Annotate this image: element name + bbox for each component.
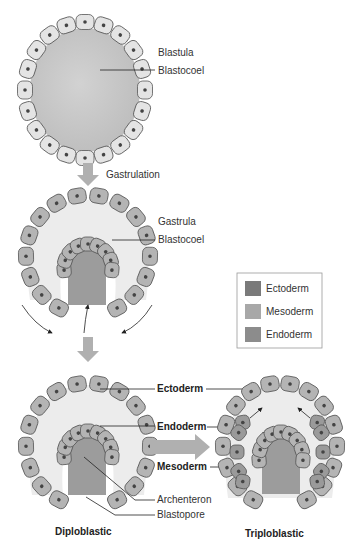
archenteron-label: Archenteron	[157, 494, 211, 505]
cell-nucleus	[83, 20, 87, 24]
legend-swatch-endoderm	[245, 327, 261, 342]
blastopore-label: Blastopore	[157, 509, 205, 520]
embryo-diagram: Blastula Blastocoel Gastrulation Gastrul…	[0, 0, 355, 556]
cell	[89, 375, 109, 393]
cell	[230, 445, 244, 459]
cell	[295, 452, 310, 468]
cell	[309, 473, 325, 489]
cell	[89, 187, 109, 205]
ectoderm-label: Ectoderm	[157, 383, 203, 394]
cell	[235, 473, 251, 489]
cell	[260, 375, 280, 393]
cell-nucleus	[86, 429, 90, 433]
gastrula-title: Gastrula	[158, 216, 196, 227]
mesoderm-label: Mesoderm	[157, 461, 207, 472]
cell	[67, 187, 87, 205]
legend: Ectoderm Mesoderm Endoderm	[237, 273, 322, 348]
invagination-arrow-left	[22, 305, 52, 333]
diploblastic-caption: Diploblastic	[55, 526, 112, 537]
invagination-arrow-center	[84, 305, 88, 333]
legend-label-ectoderm: Ectoderm	[266, 283, 309, 294]
gastrula: Gastrula Blastocoel	[18, 187, 204, 333]
triploblastic-embryo	[215, 375, 344, 511]
diploblastic-embryo	[18, 375, 157, 511]
cell-nucleus	[86, 242, 90, 246]
cell	[316, 445, 330, 459]
cell	[280, 375, 300, 393]
legend-label-endoderm: Endoderm	[266, 329, 312, 340]
gastrulation-label: Gastrulation	[106, 169, 160, 180]
down-arrow-icon	[77, 163, 99, 186]
legend-swatch-mesoderm	[245, 304, 261, 319]
cell	[138, 81, 153, 99]
blastula-title: Blastula	[158, 47, 194, 58]
gastrulation-arrow: Gastrulation	[77, 163, 160, 186]
cell	[104, 262, 119, 278]
legend-label-mesoderm: Mesoderm	[266, 306, 313, 317]
cell	[104, 449, 119, 465]
cell	[18, 247, 33, 265]
cell	[329, 437, 344, 455]
right-arrow-icon	[150, 434, 210, 460]
cell	[18, 437, 33, 455]
cell	[67, 375, 87, 393]
blastula: Blastula Blastocoel	[18, 15, 205, 166]
endoderm-label: Endoderm	[157, 421, 207, 432]
legend-swatch-ectoderm	[245, 281, 261, 296]
cell	[18, 81, 33, 99]
blastocoel-cavity	[30, 28, 140, 152]
gastrula-blastocoel-label: Blastocoel	[158, 234, 204, 245]
cell-nucleus	[321, 450, 325, 454]
down-arrow-icon	[77, 337, 99, 362]
cell	[47, 297, 70, 319]
blastula-blastocoel-label: Blastocoel	[158, 65, 204, 76]
cell-nucleus	[83, 156, 87, 160]
cell	[142, 247, 157, 265]
cell-nucleus	[235, 450, 239, 454]
cell-nucleus	[143, 88, 147, 92]
triploblastic-caption: Triploblastic	[245, 528, 304, 539]
cell	[215, 437, 230, 455]
cell-nucleus	[23, 88, 27, 92]
cell	[76, 15, 94, 30]
cell	[106, 297, 129, 319]
